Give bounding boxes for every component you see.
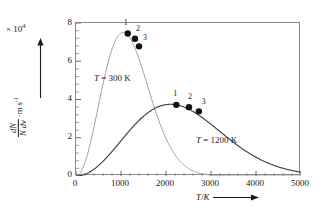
series-label-1200k: T = 1200 K [196,135,237,145]
data-point-label: 1 [124,19,128,27]
data-point-label: 2 [188,93,192,101]
x-axis-title-text: T/K [196,192,210,202]
x-axis-title: T/K [196,192,259,202]
x-tick-label: 0 [73,178,78,188]
x-tick-label: 4000 [246,178,264,188]
x-tick-label: 1000 [111,178,129,188]
chart-figure: × 104 dN N dv ·m s-1 8 6 4 2 0 0 1000 20… [0,0,330,215]
data-point-label: 3 [143,34,147,42]
x-tick-label: 2000 [156,178,174,188]
right-arrow-icon [213,193,259,202]
data-point-label: 1 [173,90,177,98]
data-point-label: 3 [202,98,206,106]
x-tick-label: 3000 [201,178,219,188]
x-tick-label: 5000 [291,178,309,188]
data-point-label: 2 [136,25,140,33]
series-label-1200k-value: 1200 [211,135,229,145]
series-label-300k-value: 300 [109,73,123,83]
series-label-300k: T = 300 K [94,73,131,83]
